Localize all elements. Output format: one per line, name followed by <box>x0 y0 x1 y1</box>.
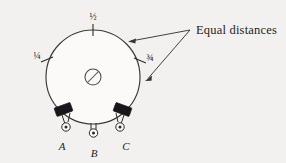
terminal-c: C <box>113 102 132 152</box>
terminal-lug-hole-a <box>65 126 68 129</box>
scale-label-half: ½ <box>89 12 96 22</box>
leader-line-lower <box>148 30 190 79</box>
scale-label-quarter: ¼ <box>33 51 40 61</box>
figure-root: ¼ ½ ¾ A B C <box>0 0 286 163</box>
terminal-label-a: A <box>58 140 66 152</box>
terminal-lug-hole-c <box>119 126 122 129</box>
terminal-a: A <box>54 102 73 152</box>
equal-distances-label: Equal distances <box>196 23 277 37</box>
terminal-label-b: B <box>91 147 98 159</box>
terminal-label-c: C <box>122 140 130 152</box>
dial-diagram: ¼ ½ ¾ A B C <box>0 0 286 163</box>
terminal-b: B <box>89 123 97 159</box>
arrow-head-lower-icon <box>145 76 152 82</box>
scale-label-three-quarter: ¾ <box>146 53 153 63</box>
terminal-lug-hole-b <box>92 132 95 135</box>
arrow-head-upper-icon <box>128 38 136 43</box>
leader-line-upper <box>131 30 190 41</box>
